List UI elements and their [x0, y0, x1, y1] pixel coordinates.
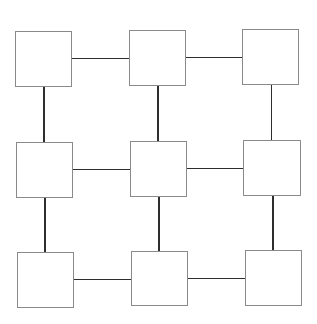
edge-r2c1-r3c1 — [44, 198, 46, 252]
edge-r2c2-r3c2 — [158, 197, 160, 251]
node-r3c2 — [131, 251, 188, 306]
node-r2c2 — [130, 141, 187, 197]
grid-diagram — [0, 0, 317, 324]
node-r2c1 — [16, 142, 73, 198]
node-r1c1 — [15, 31, 72, 87]
edge-r1c2-r2c2 — [157, 86, 159, 141]
node-r3c1 — [17, 252, 74, 308]
edge-r2c3-r3c3 — [272, 196, 274, 250]
node-r3c3 — [245, 250, 302, 306]
edge-r1c2-r1c3 — [186, 57, 242, 59]
edge-r3c2-r3c3 — [188, 278, 245, 280]
edge-r3c1-r3c2 — [74, 279, 131, 281]
edge-r2c2-r2c3 — [187, 168, 243, 170]
edge-r2c1-r2c2 — [73, 169, 130, 171]
node-r1c2 — [129, 30, 186, 86]
edge-r1c1-r2c1 — [43, 87, 45, 142]
node-r1c3 — [242, 29, 299, 85]
edge-r1c1-r1c2 — [72, 58, 129, 60]
node-r2c3 — [243, 140, 301, 196]
edge-r1c3-r2c3 — [271, 85, 273, 140]
